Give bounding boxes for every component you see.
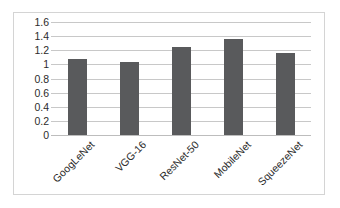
- bar: [68, 59, 87, 135]
- bar: [224, 39, 243, 135]
- plot-area: [51, 22, 311, 135]
- x-axis-tick-labels: GoogLeNetVGG-16ResNet-50MobileNetSqueeze…: [51, 135, 311, 193]
- y-axis-tick-label: 0.4: [15, 102, 49, 112]
- x-axis-tick-label: GoogLeNet: [51, 139, 97, 185]
- chart-frame: 00.20.40.60.811.21.41.6 GoogLeNetVGG-16R…: [13, 12, 325, 195]
- y-axis-tick-label: 0: [15, 130, 49, 140]
- y-axis-tick-label: 1.6: [15, 17, 49, 27]
- bar: [120, 62, 139, 135]
- bar-series: [51, 22, 311, 135]
- y-axis-tick-label: 0.2: [15, 116, 49, 126]
- x-axis-tick-label: MobileNet: [212, 139, 253, 180]
- y-axis-tick-label: 1: [15, 59, 49, 69]
- bar: [276, 53, 295, 135]
- y-axis-tick-labels: 00.20.40.60.811.21.41.6: [14, 22, 49, 135]
- y-axis-tick-label: 0.8: [15, 74, 49, 84]
- x-axis-tick-label: VGG-16: [114, 139, 149, 174]
- y-axis-tick-label: 0.6: [15, 88, 49, 98]
- y-axis-tick-label: 1.2: [15, 45, 49, 55]
- x-axis-tick-label: SqueezeNet: [256, 139, 305, 188]
- x-axis-tick-label: ResNet-50: [158, 139, 201, 182]
- bar: [172, 47, 191, 135]
- y-axis-tick-label: 1.4: [15, 31, 49, 41]
